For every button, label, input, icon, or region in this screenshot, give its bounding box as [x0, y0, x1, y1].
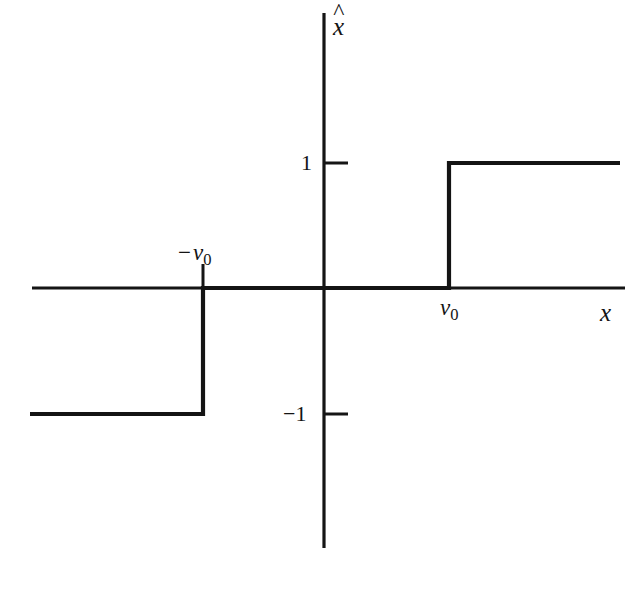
subscript-zero: 0 — [450, 305, 458, 324]
plot-canvas — [0, 0, 634, 595]
y-axis-label: x ^ — [333, 14, 344, 39]
x-axis-label: x — [600, 300, 611, 325]
minus-sign: − — [178, 240, 191, 265]
hat-accent: ^ — [333, 0, 344, 24]
y-tick-label-negative-one: −1 — [283, 403, 306, 425]
v-symbol: v — [193, 240, 203, 265]
step-function-figure: x ^ x 1 −1 −v0 v0 — [0, 0, 634, 595]
x-tick-label-positive-v0: v0 — [440, 296, 459, 323]
x-tick-label-negative-v0: −v0 — [178, 241, 211, 268]
y-tick-label-one: 1 — [301, 152, 312, 174]
v-symbol: v — [440, 295, 450, 320]
x-hat-glyph: x ^ — [333, 14, 344, 39]
subscript-zero: 0 — [203, 250, 211, 269]
